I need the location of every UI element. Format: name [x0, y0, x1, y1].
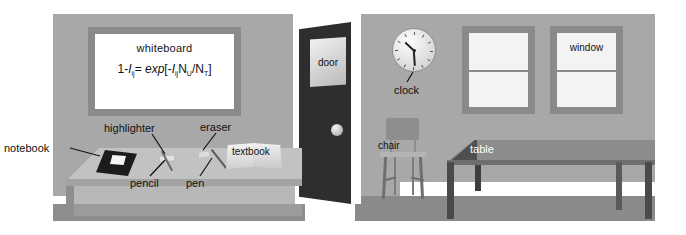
- table-label: table: [470, 143, 494, 155]
- table-leg: [616, 162, 622, 210]
- eq-n-total: N: [195, 62, 204, 76]
- eq-n-upper: N: [178, 62, 187, 76]
- desk-edge: [66, 179, 302, 186]
- door-window-pane: door: [310, 37, 346, 87]
- clock-tick: [428, 42, 431, 44]
- textbook-label: textbook: [232, 146, 270, 157]
- clock-center-pin: [413, 49, 416, 52]
- clock-tick: [405, 34, 407, 37]
- label-pencil: pencil: [130, 177, 159, 189]
- floor-right: [355, 196, 655, 221]
- whiteboard: whiteboard 1-Iij= exp[-IijNU/NT]: [88, 27, 241, 116]
- door-label: door: [318, 57, 338, 68]
- whiteboard-label: whiteboard: [137, 42, 193, 54]
- notebook-cover-label: [110, 155, 126, 165]
- eq-exp: exp: [145, 62, 164, 76]
- door-knob-icon[interactable]: [331, 124, 343, 136]
- desk-base: [66, 204, 302, 216]
- window-right-label: window: [550, 42, 623, 53]
- table-leg: [447, 162, 454, 219]
- eq-equals: =: [135, 62, 145, 76]
- clock-minute-hand: [413, 51, 416, 66]
- whiteboard-surface: whiteboard 1-Iij= exp[-IijNU/NT]: [95, 34, 234, 109]
- clock-tick: [421, 65, 423, 68]
- clock-tick: [422, 35, 424, 38]
- classroom-scene-illustration: whiteboard 1-Iij= exp[-IijNU/NT] door: [0, 0, 686, 235]
- label-clock: clock: [394, 84, 419, 96]
- desk-leg: [66, 186, 74, 216]
- table-edge: [447, 160, 655, 165]
- clock-tick: [430, 51, 433, 52]
- clock-tick: [413, 67, 414, 70]
- label-eraser: eraser: [200, 121, 231, 133]
- clock: [392, 28, 436, 72]
- window-right: window: [550, 26, 623, 114]
- clock-tick: [404, 64, 406, 67]
- window-mullion: [469, 70, 528, 72]
- clock-tick: [397, 58, 400, 60]
- eq-bracket-close: ]: [208, 62, 211, 76]
- chair-label: chair: [378, 140, 400, 151]
- clock-tick: [414, 32, 415, 35]
- window-mullion: [557, 70, 616, 72]
- whiteboard-equation: 1-Iij= exp[-IijNU/NT]: [117, 62, 211, 77]
- clock-tick: [398, 41, 401, 43]
- clock-tick: [395, 50, 398, 51]
- clock-tick: [427, 59, 430, 61]
- label-highlighter: highlighter: [104, 122, 155, 134]
- table-leg: [645, 162, 652, 219]
- eq-lhs-one: 1-: [117, 62, 128, 76]
- label-notebook: notebook: [4, 142, 49, 154]
- label-pen: pen: [186, 177, 204, 189]
- chair-backrest: [386, 118, 419, 140]
- window-left: [462, 26, 535, 114]
